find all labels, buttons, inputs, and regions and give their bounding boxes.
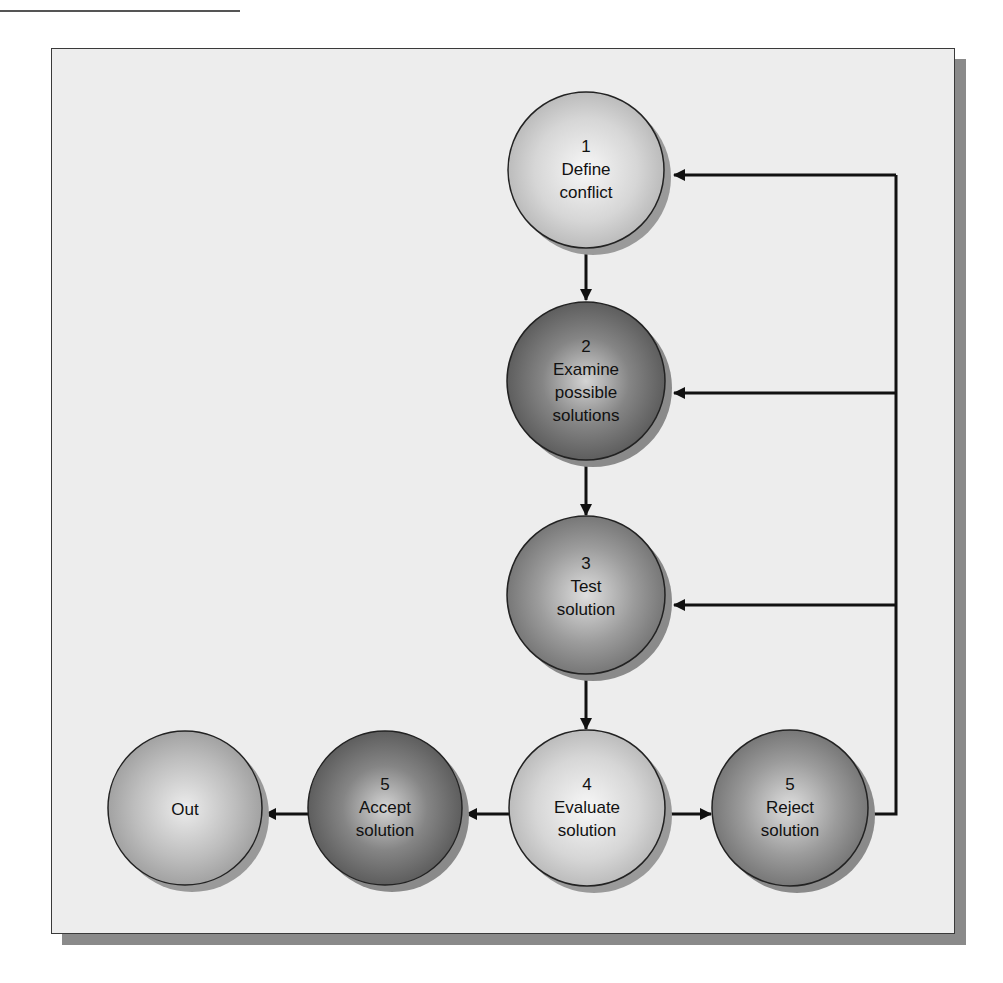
node-circle [507,302,665,460]
node-number: 1 [581,137,590,156]
node-number: 4 [582,775,591,794]
node-text-line: Evaluate [554,798,620,817]
node-text-line: solution [761,821,820,840]
node-text-line: Examine [553,360,619,379]
node-text-line: solution [558,821,617,840]
node-define-conflict: 1 Define conflict [508,92,671,255]
flowchart-diagram: 1 Define conflict 2 Examine possible sol… [0,0,1003,983]
node-text-line: conflict [560,183,613,202]
node-text-line: possible [555,383,617,402]
feedback-line [869,175,896,814]
node-accept-solution: 5 Accept solution [308,731,469,892]
node-test-solution: 3 Test solution [507,516,672,681]
node-evaluate-solution: 4 Evaluate solution [509,730,672,893]
node-text-line: Accept [359,798,411,817]
node-number: 2 [581,337,590,356]
node-text-line: Define [561,160,610,179]
node-text-line: solution [557,600,616,619]
node-text-line: Test [570,577,601,596]
node-text-line: Out [171,800,199,819]
node-number: 5 [785,775,794,794]
node-number: 5 [380,775,389,794]
node-text-line: solutions [552,406,619,425]
node-reject-solution: 5 Reject solution [712,730,875,893]
node-out: Out [108,731,269,892]
node-text-line: Reject [766,798,814,817]
node-text-line: solution [356,821,415,840]
node-number: 3 [581,554,590,573]
connectors [265,175,896,814]
node-examine-possible-solutions: 2 Examine possible solutions [507,302,672,467]
